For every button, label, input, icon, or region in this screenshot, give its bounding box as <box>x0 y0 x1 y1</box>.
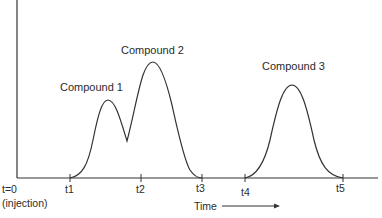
label-t4: t4 <box>241 186 250 198</box>
label-t2: t2 <box>136 183 145 195</box>
label-time: Time <box>194 200 217 212</box>
label-compound-2: Compound 2 <box>121 44 184 56</box>
peak-compound-1-2-curve <box>70 62 202 178</box>
label-origin-injection: (injection) <box>2 197 48 209</box>
label-origin-t0: t=0 <box>2 183 17 195</box>
label-compound-3: Compound 3 <box>262 60 325 72</box>
chromatogram-diagram <box>0 0 382 218</box>
label-t3: t3 <box>196 182 205 194</box>
peak-compound-3-curve <box>245 85 343 178</box>
label-compound-1: Compound 1 <box>60 81 123 93</box>
label-t5: t5 <box>336 182 345 194</box>
time-arrow-head-icon <box>274 204 280 209</box>
label-t1: t1 <box>65 183 74 195</box>
